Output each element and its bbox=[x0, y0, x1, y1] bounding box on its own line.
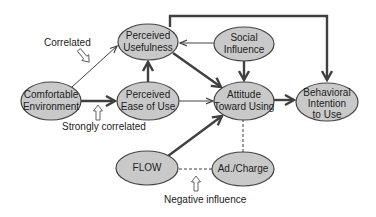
label-perceived-usefulness: Perceived Usefulness bbox=[118, 26, 178, 58]
label-line: Perceived bbox=[126, 30, 170, 42]
label-line: Social bbox=[230, 32, 257, 44]
label-line: Ease of Use bbox=[121, 101, 175, 113]
label-flow: FLOW bbox=[116, 158, 178, 178]
label-social-influence: Social Influence bbox=[214, 28, 274, 60]
label-attitude-toward-using: Attitude Toward Using bbox=[212, 85, 276, 117]
label-line: Toward Using bbox=[214, 101, 275, 113]
hollow-arrow-correlated-icon bbox=[75, 47, 92, 65]
hollow-arrow-strongly-correlated-icon bbox=[94, 105, 103, 120]
label-comfortable-environment: Comfortable Environment bbox=[21, 85, 81, 117]
label-line: Comfortable bbox=[24, 89, 78, 101]
label-behavioral-intention: Behavioral Intention to Use bbox=[296, 84, 358, 122]
label-line: FLOW bbox=[133, 162, 162, 174]
label-line: Usefulness bbox=[123, 42, 172, 54]
label-line: Perceived bbox=[126, 89, 170, 101]
label-line: Influence bbox=[224, 44, 265, 56]
label-perceived-ease-of-use: Perceived Ease of Use bbox=[117, 85, 179, 117]
label-line: Behavioral bbox=[303, 87, 350, 98]
label-line: Environment bbox=[23, 101, 79, 113]
annotation-strongly-correlated: Strongly correlated bbox=[62, 121, 146, 132]
hollow-arrow-negative-influence-icon bbox=[192, 176, 201, 191]
label-line: to Use bbox=[313, 109, 342, 120]
annotation-negative-influence: Negative influence bbox=[164, 194, 246, 205]
edge-flow-to-attitude bbox=[168, 116, 222, 156]
edges bbox=[72, 16, 327, 169]
annotation-correlated: Correlated bbox=[44, 37, 91, 48]
label-line: Attitude bbox=[227, 89, 261, 101]
label-ad-charge: Ad./Charge bbox=[212, 159, 274, 179]
label-line: Ad./Charge bbox=[218, 163, 269, 175]
label-line: Intention bbox=[308, 98, 346, 109]
